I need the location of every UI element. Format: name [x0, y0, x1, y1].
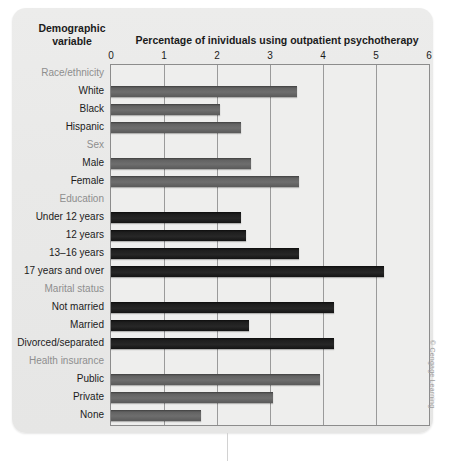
bar-label-not-married: Not married	[12, 298, 104, 316]
x-tick-1: 1	[152, 50, 176, 61]
group-header-row: Sex	[12, 136, 433, 154]
group-header-row: Race/ethnicity	[12, 64, 433, 82]
copyright-credit: © Cengage Learning	[429, 340, 436, 408]
demographic-heading-line2: variable	[30, 35, 114, 48]
bar-male	[111, 158, 251, 169]
bar-17-years-and-over	[111, 266, 384, 277]
bar-label-none: None	[12, 406, 104, 424]
bar-under-12-years	[111, 212, 241, 223]
bar-13-16-years	[111, 248, 299, 259]
bar-label-13-16-years: 13–16 years	[12, 244, 104, 262]
x-tick-5: 5	[364, 50, 388, 61]
bar-none	[111, 410, 201, 421]
x-tick-0: 0	[99, 50, 123, 61]
bar-divorced-separated	[111, 338, 334, 349]
bar-row: Private	[12, 388, 433, 406]
bar-label-private: Private	[12, 388, 104, 406]
group-label-education: Education	[12, 190, 104, 208]
bar-row: Public	[12, 370, 433, 388]
bar-row: Hispanic	[12, 118, 433, 136]
bar-label-female: Female	[12, 172, 104, 190]
bar-row: Married	[12, 316, 433, 334]
bar-row: Not married	[12, 298, 433, 316]
bar-row: Female	[12, 172, 433, 190]
group-label-sex: Sex	[12, 136, 104, 154]
group-label-race-ethnicity: Race/ethnicity	[12, 64, 104, 82]
x-tick-6: 6	[417, 50, 441, 61]
bar-label-married: Married	[12, 316, 104, 334]
bar-label-public: Public	[12, 370, 104, 388]
bar-hispanic	[111, 122, 241, 133]
bar-label-black: Black	[12, 100, 104, 118]
group-header-row: Education	[12, 190, 433, 208]
bar-row: Black	[12, 100, 433, 118]
chart-panel: Demographic variable Percentage of inivi…	[12, 8, 433, 433]
x-tick-2: 2	[205, 50, 229, 61]
bar-row: None	[12, 406, 433, 424]
bar-black	[111, 104, 220, 115]
bar-row: 12 years	[12, 226, 433, 244]
x-axis-tick-labels: 0123456	[12, 50, 433, 64]
bar-not-married	[111, 302, 334, 313]
x-tick-4: 4	[311, 50, 335, 61]
bar-label-divorced-separated: Divorced/separated	[12, 334, 104, 352]
group-header-row: Health insurance	[12, 352, 433, 370]
bar-label-17-years-and-over: 17 years and over	[12, 262, 104, 280]
chart-title: Percentage of inividuals using outpatien…	[120, 34, 434, 46]
bar-row: Divorced/separated	[12, 334, 433, 352]
bar-label-hispanic: Hispanic	[12, 118, 104, 136]
caption-stem	[227, 433, 228, 461]
bar-public	[111, 374, 320, 385]
bar-label-male: Male	[12, 154, 104, 172]
bar-private	[111, 392, 273, 403]
bar-married	[111, 320, 249, 331]
bar-white	[111, 86, 297, 97]
demographic-heading-line1: Demographic	[30, 22, 114, 35]
group-header-row: Marital status	[12, 280, 433, 298]
bar-label-12-years: 12 years	[12, 226, 104, 244]
bar-label-under-12-years: Under 12 years	[12, 208, 104, 226]
group-label-marital-status: Marital status	[12, 280, 104, 298]
bar-row: White	[12, 82, 433, 100]
bar-row: Under 12 years	[12, 208, 433, 226]
bar-row: 17 years and over	[12, 262, 433, 280]
bar-12-years	[111, 230, 246, 241]
bar-female	[111, 176, 299, 187]
group-label-health-insurance: Health insurance	[12, 352, 104, 370]
bar-label-white: White	[12, 82, 104, 100]
bar-row: 13–16 years	[12, 244, 433, 262]
bar-row: Male	[12, 154, 433, 172]
x-tick-3: 3	[258, 50, 282, 61]
demographic-variable-heading: Demographic variable	[30, 22, 114, 47]
